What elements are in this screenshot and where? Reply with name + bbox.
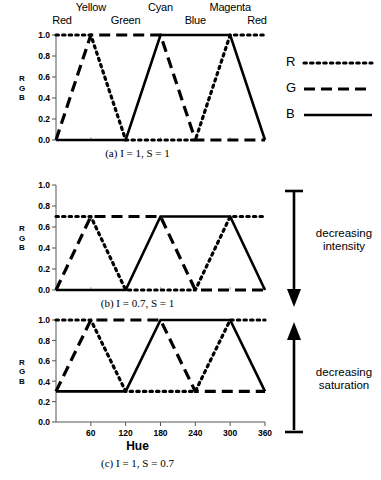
hsi-rgb-figure: RedYellowGreenCyanBlueMagentaRed 1.00.80… bbox=[0, 0, 381, 480]
legend-key-B: B bbox=[286, 106, 302, 121]
annotation-decreasing-intensity: decreasing intensity bbox=[281, 185, 381, 310]
up-arrow-icon bbox=[281, 320, 307, 440]
chart-panel-b: 1.00.80.60.40.20.0RGB bbox=[0, 165, 275, 315]
y-axis-tick-label: 1.0 bbox=[38, 180, 50, 190]
series-line-G bbox=[56, 320, 265, 391]
x-axis-title: Hue bbox=[0, 439, 275, 453]
caption-c: (c) I = 1, S = 0.7 bbox=[0, 457, 275, 469]
hue-label-row: RedYellowGreenCyanBlueMagentaRed bbox=[0, 0, 275, 30]
y-axis-title-letter: R bbox=[19, 74, 25, 83]
y-axis-title-letter: B bbox=[19, 243, 25, 252]
annotation-saturation-line1: decreasing bbox=[316, 366, 372, 378]
y-axis-tick-label: 0.2 bbox=[38, 114, 50, 124]
y-axis-tick-label: 0.6 bbox=[38, 72, 50, 82]
y-axis-title-letter: B bbox=[19, 93, 25, 102]
annotation-intensity-line2: intensity bbox=[307, 240, 381, 253]
y-axis-tick-label: 0.8 bbox=[38, 336, 50, 346]
caption-a: (a) I = 1, S = 1 bbox=[0, 147, 275, 159]
hue-label-green-120: Green bbox=[111, 14, 141, 26]
legend-row-R: R bbox=[286, 48, 381, 74]
annotation-saturation-text: decreasing saturation bbox=[307, 366, 381, 392]
x-axis-tick-label: 300 bbox=[223, 428, 237, 438]
legend: RGB bbox=[286, 48, 381, 126]
y-axis-tick-label: 0.2 bbox=[38, 264, 50, 274]
legend-line-B bbox=[302, 109, 374, 121]
x-axis-tick-label: 180 bbox=[153, 428, 167, 438]
y-axis-title-letter: G bbox=[19, 234, 25, 243]
hue-label-blue-240: Blue bbox=[185, 14, 206, 26]
y-axis-title-letter: B bbox=[19, 377, 25, 386]
hue-label-red-0: Red bbox=[52, 14, 72, 26]
down-arrow-icon bbox=[281, 185, 307, 310]
series-line-R bbox=[56, 35, 265, 140]
legend-row-G: G bbox=[286, 74, 381, 100]
legend-row-B: B bbox=[286, 100, 381, 126]
panel-c-plot: 1.00.80.60.40.20.0RGB60120180240300360 bbox=[0, 315, 275, 480]
y-axis-tick-label: 0.2 bbox=[38, 397, 50, 407]
x-axis-tick-label: 120 bbox=[119, 428, 133, 438]
legend-line-R bbox=[302, 57, 374, 69]
panel-b-plot: 1.00.80.60.40.20.0RGB bbox=[0, 165, 275, 315]
legend-key-G: G bbox=[286, 80, 302, 95]
y-axis-tick-label: 0.4 bbox=[38, 377, 50, 387]
caption-b: (b) I = 0.7, S = 1 bbox=[0, 297, 275, 309]
annotation-saturation-line2: saturation bbox=[307, 379, 381, 392]
y-axis-tick-label: 0.4 bbox=[38, 93, 50, 103]
chart-panel-a: RedYellowGreenCyanBlueMagentaRed 1.00.80… bbox=[0, 0, 275, 165]
series-line-G bbox=[56, 217, 265, 291]
chart-panel-c: 1.00.80.60.40.20.0RGB60120180240300360 bbox=[0, 315, 275, 480]
annotation-intensity-line1: decreasing bbox=[316, 227, 372, 239]
y-axis-tick-label: 0.6 bbox=[38, 222, 50, 232]
legend-sample-G bbox=[302, 81, 381, 93]
y-axis-tick-label: 0.4 bbox=[38, 243, 50, 253]
annotation-intensity-text: decreasing intensity bbox=[307, 227, 381, 253]
y-axis-title-letter: G bbox=[19, 84, 25, 93]
y-axis-title-letter: R bbox=[19, 358, 25, 367]
x-axis-tick-label: 360 bbox=[258, 428, 272, 438]
legend-line-G bbox=[302, 83, 374, 95]
y-axis-tick-label: 0.8 bbox=[38, 201, 50, 211]
x-axis-tick-label: 240 bbox=[188, 428, 202, 438]
legend-sample-B bbox=[302, 107, 381, 119]
y-axis-tick-label: 0.0 bbox=[38, 285, 50, 295]
y-axis-tick-label: 0.8 bbox=[38, 51, 50, 61]
hue-label-cyan-180: Cyan bbox=[148, 1, 173, 13]
series-line-B bbox=[56, 35, 265, 140]
x-axis-tick-label: 60 bbox=[86, 428, 96, 438]
y-axis-tick-label: 0.0 bbox=[38, 417, 50, 427]
series-line-G bbox=[56, 35, 265, 140]
legend-sample-R bbox=[302, 55, 381, 67]
y-axis-title-letter: R bbox=[19, 224, 25, 233]
y-axis-tick-label: 1.0 bbox=[38, 315, 50, 325]
legend-key-R: R bbox=[286, 54, 302, 69]
y-axis-tick-label: 0.0 bbox=[38, 135, 50, 145]
annotation-decreasing-saturation: decreasing saturation bbox=[281, 320, 381, 440]
y-axis-title-letter: G bbox=[19, 367, 25, 376]
hue-label-magenta-300: Magenta bbox=[209, 1, 250, 13]
hue-label-red-360: Red bbox=[247, 14, 267, 26]
hue-label-yellow-60: Yellow bbox=[76, 1, 106, 13]
y-axis-tick-label: 0.6 bbox=[38, 356, 50, 366]
y-axis-tick-label: 1.0 bbox=[38, 30, 50, 40]
